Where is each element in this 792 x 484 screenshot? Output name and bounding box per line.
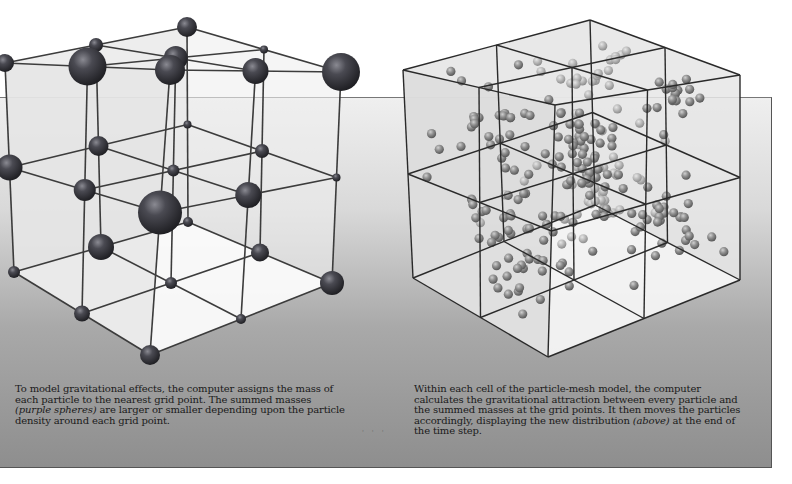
particle [482, 206, 491, 215]
particle [678, 109, 687, 118]
particle [525, 111, 534, 120]
particle [427, 129, 436, 138]
particle [653, 217, 662, 226]
mass-sphere [251, 244, 269, 262]
particle [635, 119, 644, 128]
caption-right: Within each cell of the particle-mesh mo… [414, 384, 744, 437]
particle [607, 141, 616, 150]
particle [583, 158, 592, 167]
mass-sphere [140, 345, 160, 365]
particle [668, 80, 677, 89]
caption-left-text: To model gravitational effects, the comp… [15, 383, 333, 405]
particle [484, 132, 493, 141]
mass-sphere [333, 174, 341, 182]
particle [510, 166, 519, 175]
particle [539, 236, 548, 245]
particle [577, 178, 586, 187]
mass-sphere [74, 179, 96, 201]
particle [504, 226, 513, 235]
particle [580, 132, 589, 141]
particle [556, 109, 565, 118]
particle [501, 163, 510, 172]
particle [590, 119, 599, 128]
particle [556, 261, 565, 270]
mass-sphere [183, 217, 193, 227]
particle [608, 123, 617, 132]
particle [515, 283, 524, 292]
particle [613, 104, 622, 113]
particle [489, 275, 498, 284]
particle [655, 78, 664, 87]
particle [557, 239, 566, 248]
particle [566, 176, 575, 185]
particle [707, 232, 716, 241]
particle [579, 234, 588, 243]
particle [627, 245, 636, 254]
mass-sphere [167, 165, 179, 177]
mass-sphere [88, 234, 114, 260]
particle [598, 41, 607, 50]
mass-sphere [236, 314, 246, 324]
particle [585, 191, 594, 200]
particle [456, 142, 465, 151]
particle [505, 130, 514, 139]
mass-sphere [74, 306, 90, 322]
mass-sphere [165, 277, 177, 289]
particle [536, 295, 545, 304]
particle [622, 47, 631, 56]
particle [471, 213, 480, 222]
mass-sphere [138, 191, 182, 235]
particle [651, 251, 660, 260]
particle [680, 213, 689, 222]
mass-sphere [8, 266, 20, 278]
particle [681, 171, 690, 180]
particle [435, 145, 444, 154]
particle [596, 139, 605, 148]
mass-sphere [322, 53, 360, 91]
particle [493, 283, 502, 292]
particle [470, 119, 479, 128]
particle [685, 97, 694, 106]
caption-left: To model gravitational effects, the comp… [15, 384, 345, 426]
particle [564, 135, 573, 144]
particle [655, 204, 664, 213]
print-specks: · · · [362, 427, 387, 434]
mass-sphere [255, 144, 269, 158]
particle [538, 211, 547, 220]
particle [504, 290, 513, 299]
particle [520, 142, 529, 151]
mass-sphere [177, 17, 197, 37]
particle [588, 247, 597, 256]
particle [614, 170, 623, 179]
particle [669, 208, 678, 217]
particle [659, 130, 668, 139]
particle [603, 170, 612, 179]
particle [633, 173, 642, 182]
particle [653, 103, 662, 112]
mass-sphere [320, 271, 344, 295]
particle [685, 231, 694, 240]
particle [502, 272, 511, 281]
caption-left-emphasis: (purple spheres) [15, 404, 96, 415]
caption-right-emphasis: (above) [633, 415, 670, 426]
grid-mass-cube [0, 17, 360, 365]
particle [573, 158, 582, 167]
particle [611, 55, 620, 64]
particle [619, 184, 628, 193]
mass-sphere [260, 46, 268, 54]
particle [518, 309, 527, 318]
mass-sphere [184, 121, 192, 129]
particle [605, 81, 614, 90]
particle [514, 60, 523, 69]
mass-sphere [69, 48, 107, 86]
particle [668, 95, 677, 104]
particle [549, 227, 558, 236]
particle [538, 266, 547, 275]
particle [719, 247, 728, 256]
particle [474, 234, 483, 243]
particle [695, 93, 704, 102]
particle [627, 209, 636, 218]
mass-sphere [243, 58, 269, 84]
particle-mesh-cube [403, 20, 740, 357]
particle [506, 113, 515, 122]
